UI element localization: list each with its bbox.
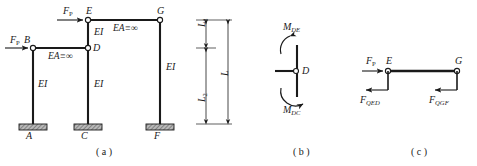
- joint-label-A: A: [26, 131, 32, 141]
- load-label-E: FP: [63, 6, 73, 17]
- panel-caption-c: ( c ): [411, 146, 427, 157]
- fb-joint-label-D: D: [302, 66, 309, 76]
- moment-label-DC: MDC: [283, 105, 301, 116]
- stiffness-label-FG: EI: [166, 62, 175, 72]
- moment-arc-DE: [280, 36, 290, 54]
- panel-b-graphics: [275, 36, 303, 106]
- hinge-B: [30, 45, 35, 50]
- stiffness-label-CD: EI: [94, 79, 103, 89]
- panel-caption-b: ( b ): [293, 146, 310, 157]
- shear-label-QGF: FQGF: [429, 95, 449, 106]
- hinge-G: [157, 17, 162, 22]
- panel-caption-a: ( a ): [96, 146, 112, 157]
- dimension-line-L2: [196, 50, 216, 124]
- dimension-label-L2: L2: [197, 93, 208, 102]
- stiffness-label-AB: EI: [38, 79, 47, 89]
- dimension-label-L1: L1: [197, 18, 208, 27]
- support-base-F: [146, 124, 174, 130]
- stiffness-label-DE: EI: [94, 27, 103, 37]
- load-label-B: FP: [10, 35, 20, 46]
- panel-c-graphics: [362, 68, 460, 90]
- load-subscript-B: P: [16, 39, 20, 46]
- joint-label-D: D: [93, 43, 100, 53]
- hinge-E: [85, 17, 90, 22]
- fb-load-label-FP: FP: [366, 56, 376, 67]
- dimension-label-L: L: [220, 70, 231, 76]
- support-base-A: [19, 124, 47, 130]
- fb-joint-label-G: G: [455, 56, 462, 66]
- joint-label-G: G: [157, 6, 164, 16]
- support-base-C: [74, 124, 102, 130]
- joint-label-E: E: [86, 6, 92, 16]
- hinge-D: [85, 45, 90, 50]
- stiffness-label-EG: EA≡∞: [113, 24, 138, 34]
- joint-label-B: B: [24, 35, 30, 45]
- joint-label-C: C: [81, 131, 88, 141]
- stiffness-label-BD: EA≡∞: [48, 52, 73, 62]
- figure-vector-canvas: [0, 0, 477, 166]
- panel-a-graphics: [5, 17, 232, 130]
- fb-joint-label-E: E: [386, 56, 392, 66]
- moment-label-DE: MDE: [283, 22, 300, 33]
- load-subscript-E: P: [69, 10, 73, 17]
- joint-label-F: F: [154, 131, 160, 141]
- shear-label-QED: FQED: [360, 95, 380, 106]
- structural-analysis-figure: A C F B D E G FP FP EA≡∞ EA≡∞ EI EI EI E…: [0, 0, 477, 166]
- fb-hinge-D: [294, 69, 299, 74]
